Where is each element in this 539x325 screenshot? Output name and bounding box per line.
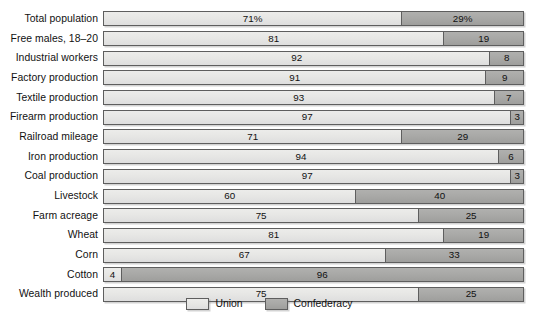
bar-value-union: 81 (268, 34, 279, 44)
bar-value-confederacy: 3 (514, 171, 520, 181)
bar-segment-union: 97 (104, 170, 510, 183)
bar-value-union: 71% (243, 14, 263, 24)
bar-segment-confederacy: 7 (494, 91, 523, 104)
bar-value-union: 97 (302, 171, 313, 181)
row-label: Cotton (0, 269, 103, 281)
row-label: Total population (0, 13, 103, 25)
bar-value-confederacy: 33 (449, 250, 460, 260)
bar-segment-union: 81 (104, 32, 443, 45)
row-label: Coal production (0, 170, 103, 182)
row-label: Textile production (0, 92, 103, 104)
bar-segment-confederacy: 29 (401, 130, 523, 143)
bar-track: 919 (103, 70, 524, 85)
bar-track: 496 (103, 267, 524, 282)
row-label: Factory production (0, 72, 103, 84)
row-label: Industrial workers (0, 52, 103, 64)
bar-value-union: 4 (110, 270, 116, 280)
chart-row: Firearm production973 (0, 107, 539, 127)
row-label: Livestock (0, 190, 103, 202)
stacked-bar-chart: Total population71%29%Free males, 18–208… (0, 9, 539, 304)
bar-value-confederacy: 25 (466, 211, 477, 221)
bar-value-confederacy: 96 (317, 270, 328, 280)
bar-value-union: 97 (302, 112, 313, 122)
bar-segment-confederacy: 6 (498, 150, 523, 163)
bar-value-union: 60 (224, 191, 235, 201)
row-label: Firearm production (0, 111, 103, 123)
bar-segment-confederacy: 9 (485, 71, 523, 84)
row-label: Iron production (0, 151, 103, 163)
bar-value-confederacy: 29% (453, 14, 473, 24)
bar-value-union: 92 (291, 53, 302, 63)
chart-row: Livestock6040 (0, 186, 539, 206)
chart-row: Textile production937 (0, 88, 539, 108)
bar-segment-union: 75 (104, 209, 418, 222)
bar-value-union: 75 (256, 211, 267, 221)
row-label: Corn (0, 249, 103, 261)
bar-segment-confederacy: 96 (121, 268, 523, 281)
bar-track: 937 (103, 90, 524, 105)
legend-item-confederacy: Confederacy (265, 298, 353, 310)
bar-track: 7129 (103, 129, 524, 144)
chart-row: Factory production919 (0, 68, 539, 88)
bar-segment-confederacy: 3 (510, 111, 523, 124)
chart-row: Cotton496 (0, 265, 539, 285)
bar-segment-union: 94 (104, 150, 498, 163)
bar-value-confederacy: 6 (508, 152, 514, 162)
bar-segment-union: 60 (104, 190, 355, 203)
bar-segment-union: 4 (104, 268, 121, 281)
figure-caption (30, 318, 530, 325)
chart-row: Farm acreage7525 (0, 206, 539, 226)
chart-row: Corn6733 (0, 245, 539, 265)
bar-value-confederacy: 29 (457, 132, 468, 142)
row-label: Farm acreage (0, 210, 103, 222)
bar-track: 928 (103, 51, 524, 66)
legend-label-union: Union (215, 298, 242, 310)
chart-row: Wheat8119 (0, 226, 539, 246)
bar-track: 973 (103, 169, 524, 184)
bar-track: 8119 (103, 228, 524, 243)
legend-label-confederacy: Confederacy (294, 298, 353, 310)
bar-value-confederacy: 40 (434, 191, 445, 201)
bar-segment-confederacy: 3 (510, 170, 523, 183)
legend-item-union: Union (186, 298, 242, 310)
bar-segment-confederacy: 19 (443, 229, 523, 242)
bar-segment-confederacy: 33 (385, 249, 523, 262)
bar-track: 8119 (103, 31, 524, 46)
bar-track: 7525 (103, 208, 524, 223)
bar-segment-union: 71 (104, 130, 401, 143)
bar-segment-union: 81 (104, 229, 443, 242)
chart-legend: Union Confederacy (0, 298, 539, 310)
bar-track: 6040 (103, 189, 524, 204)
bar-segment-confederacy: 8 (489, 52, 523, 65)
chart-row: Iron production946 (0, 147, 539, 167)
bar-value-confederacy: 7 (506, 93, 512, 103)
bar-value-confederacy: 19 (478, 230, 489, 240)
bar-segment-confederacy: 19 (443, 32, 523, 45)
bar-value-union: 67 (239, 250, 250, 260)
bar-value-union: 94 (295, 152, 306, 162)
bar-value-confederacy: 3 (514, 112, 520, 122)
chart-row: Industrial workers928 (0, 48, 539, 68)
bar-value-confederacy: 9 (502, 73, 508, 83)
chart-row: Railroad mileage7129 (0, 127, 539, 147)
bar-segment-union: 93 (104, 91, 494, 104)
bar-segment-union: 91 (104, 71, 485, 84)
row-label: Railroad mileage (0, 131, 103, 143)
bar-segment-confederacy: 25 (418, 209, 523, 222)
chart-row: Total population71%29% (0, 9, 539, 29)
light-gray-swatch-icon (186, 298, 209, 310)
bar-track: 973 (103, 110, 524, 125)
row-label: Wheat (0, 229, 103, 241)
bar-segment-union: 71% (104, 12, 401, 25)
bar-value-confederacy: 8 (504, 53, 510, 63)
bar-segment-union: 67 (104, 249, 385, 262)
bar-track: 71%29% (103, 11, 524, 26)
bar-value-union: 71 (247, 132, 258, 142)
bar-track: 6733 (103, 248, 524, 263)
chart-row: Free males, 18–208119 (0, 29, 539, 49)
bar-value-union: 81 (268, 230, 279, 240)
bar-value-union: 93 (293, 93, 304, 103)
bar-segment-union: 97 (104, 111, 510, 124)
bar-segment-confederacy: 29% (401, 12, 523, 25)
bar-value-union: 91 (289, 73, 300, 83)
